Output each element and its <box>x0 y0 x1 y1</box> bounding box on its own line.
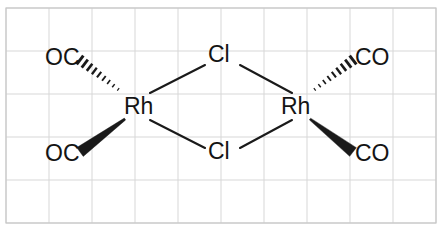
hash-tick <box>117 88 119 90</box>
hash-tick <box>332 72 336 78</box>
hash-tick <box>97 72 101 78</box>
hash-tick <box>87 64 92 71</box>
hash-wedge-oc-top-left <box>77 56 119 91</box>
atom-label-co-top-right: CO <box>355 46 390 69</box>
atom-label-oc-bottom-left: OC <box>45 142 80 165</box>
hash-tick <box>314 88 316 90</box>
atom-label-rh-right: Rh <box>281 95 310 118</box>
atom-label-cl-bottom: Cl <box>208 140 230 163</box>
solid-wedge-oc-bottom-left <box>77 118 126 156</box>
bond-rh-left-cl-top <box>150 65 205 93</box>
atom-label-co-bottom-right: CO <box>355 142 390 165</box>
hash-tick <box>112 84 114 87</box>
hash-tick <box>318 84 320 87</box>
solid-wedge-co-bottom-right <box>309 118 356 156</box>
hash-tick <box>107 80 110 84</box>
hash-tick <box>323 80 326 84</box>
bond-cl-top-rh-right <box>240 65 292 93</box>
hash-tick <box>345 60 351 68</box>
atom-label-rh-left: Rh <box>124 95 153 118</box>
bond-rh-left-cl-bottom <box>150 120 205 148</box>
plain-bond-group <box>150 65 292 148</box>
hash-wedge-co-top-right <box>314 56 356 91</box>
hash-tick <box>341 64 346 71</box>
bond-cl-bottom-rh-right <box>240 120 292 148</box>
hash-tick <box>82 60 88 68</box>
molecule-drawing <box>0 0 441 230</box>
structure-figure: OCOCRhClClRhCOCO <box>0 0 441 230</box>
atom-label-cl-top: Cl <box>208 43 230 66</box>
hash-tick <box>327 76 331 81</box>
hash-tick <box>92 68 97 74</box>
hash-tick <box>336 68 341 74</box>
hash-tick <box>102 76 106 81</box>
atom-label-oc-top-left: OC <box>45 46 80 69</box>
